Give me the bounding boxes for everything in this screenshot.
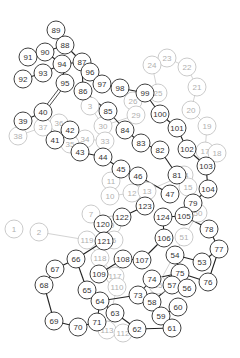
node-label: 94 xyxy=(58,60,67,69)
node-label: 73 xyxy=(134,291,143,300)
node-label: 2 xyxy=(37,228,42,237)
node-label: 124 xyxy=(156,213,170,222)
node-110: 110 xyxy=(108,278,126,296)
node-10: 10 xyxy=(101,187,119,205)
node-label: 85 xyxy=(104,107,113,116)
node-124: 124 xyxy=(154,208,172,226)
node-85: 85 xyxy=(99,102,117,120)
node-121: 121 xyxy=(95,232,113,250)
node-label: 65 xyxy=(83,286,92,295)
node-107: 107 xyxy=(133,251,151,269)
node-76: 76 xyxy=(199,273,217,291)
node-41: 41 xyxy=(46,131,64,149)
node-53: 53 xyxy=(193,253,211,271)
node-label: 7 xyxy=(89,210,94,219)
node-84: 84 xyxy=(116,121,134,139)
node-90: 90 xyxy=(36,43,54,61)
node-label: 92 xyxy=(19,75,28,84)
node-label: 22 xyxy=(183,63,192,72)
node-label: 38 xyxy=(14,132,23,141)
node-label: 43 xyxy=(76,148,85,157)
node-45: 45 xyxy=(112,160,130,178)
node-label: 107 xyxy=(135,256,149,265)
node-60: 60 xyxy=(169,298,187,316)
node-label: 51 xyxy=(180,233,189,242)
node-label: 83 xyxy=(137,139,146,148)
node-label: 68 xyxy=(40,281,49,290)
node-40: 40 xyxy=(34,103,52,121)
node-label: 74 xyxy=(148,275,157,284)
node-label: 101 xyxy=(170,124,184,133)
node-label: 91 xyxy=(24,53,33,62)
node-42: 42 xyxy=(61,121,79,139)
node-81: 81 xyxy=(168,166,186,184)
node-44: 44 xyxy=(94,148,112,166)
node-label: 70 xyxy=(74,323,83,332)
node-label: 81 xyxy=(173,171,182,180)
node-label: 89 xyxy=(52,26,61,35)
node-label: 20 xyxy=(187,106,196,115)
node-label: 40 xyxy=(39,108,48,117)
node-123: 123 xyxy=(136,197,154,215)
node-label: 99 xyxy=(141,89,150,98)
node-label: 106 xyxy=(157,234,171,243)
node-label: 12 xyxy=(128,189,137,198)
node-74: 74 xyxy=(143,270,161,288)
node-label: 88 xyxy=(61,41,70,50)
node-label: 19 xyxy=(203,122,212,131)
node-label: 67 xyxy=(51,265,60,274)
node-label: 60 xyxy=(174,303,183,312)
node-label: 11 xyxy=(107,177,116,186)
node-86: 86 xyxy=(74,82,92,100)
node-93: 93 xyxy=(34,64,52,82)
node-label: 63 xyxy=(111,309,120,318)
node-label: 123 xyxy=(138,202,152,211)
node-62: 62 xyxy=(128,320,146,338)
node-label: 33 xyxy=(101,137,110,146)
node-label: 42 xyxy=(66,126,75,135)
node-label: 29 xyxy=(132,111,141,120)
node-label: 96 xyxy=(86,68,95,77)
node-99: 99 xyxy=(136,84,154,102)
node-label: 37 xyxy=(39,123,48,132)
node-label: 98 xyxy=(116,84,125,93)
node-label: 108 xyxy=(116,255,130,264)
node-1: 1 xyxy=(5,220,23,238)
node-label: 86 xyxy=(79,87,88,96)
node-label: 105 xyxy=(177,212,191,221)
node-label: 34 xyxy=(81,135,90,144)
node-label: 90 xyxy=(41,48,50,57)
node-54: 54 xyxy=(166,246,184,264)
node-label: 120 xyxy=(96,220,110,229)
node-label: 39 xyxy=(19,117,28,126)
node-label: 23 xyxy=(163,54,172,63)
node-2: 2 xyxy=(30,223,48,241)
node-70: 70 xyxy=(69,318,87,336)
node-label: 13 xyxy=(143,187,152,196)
node-46: 46 xyxy=(129,167,147,185)
node-label: 61 xyxy=(168,324,177,333)
node-100: 100 xyxy=(151,105,169,123)
node-label: 110 xyxy=(111,283,124,292)
node-102: 102 xyxy=(178,140,196,158)
node-label: 58 xyxy=(148,298,157,307)
node-39: 39 xyxy=(14,112,32,130)
node-97: 97 xyxy=(93,75,111,93)
graph-canvas: 2324222125262029330193637383433351718111… xyxy=(0,0,240,358)
node-47: 47 xyxy=(161,185,179,203)
node-61: 61 xyxy=(163,319,181,337)
node-label: 44 xyxy=(99,153,108,162)
node-105: 105 xyxy=(175,207,193,225)
node-label: 119 xyxy=(81,236,94,245)
node-label: 95 xyxy=(61,79,70,88)
node-33: 33 xyxy=(96,132,114,150)
node-label: 104 xyxy=(201,185,215,194)
node-21: 21 xyxy=(188,78,206,96)
node-label: 41 xyxy=(51,136,60,145)
node-88: 88 xyxy=(56,36,74,54)
node-63: 63 xyxy=(106,304,124,322)
node-label: 62 xyxy=(133,325,142,334)
chain-graph: 2324222125262029330193637383433351718111… xyxy=(0,0,240,358)
node-94: 94 xyxy=(53,55,71,73)
node-label: 103 xyxy=(199,162,213,171)
